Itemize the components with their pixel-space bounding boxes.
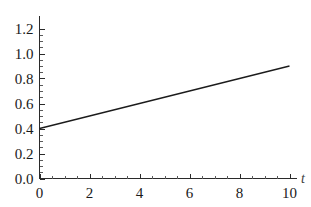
y-tick-label: 0.6 — [15, 96, 34, 112]
y-tick-label: 0.4 — [15, 121, 34, 137]
y-tick-label: 0.0 — [15, 171, 34, 187]
x-tick-label: 0 — [36, 185, 44, 201]
y-tick-label: 0.2 — [15, 146, 34, 162]
x-tick-label: 6 — [186, 185, 194, 201]
y-tick-label: 1.0 — [15, 46, 34, 62]
chart-background — [0, 0, 311, 207]
x-tick-label: 2 — [86, 185, 94, 201]
x-tick-label: 4 — [136, 185, 144, 201]
y-tick-label: 0.8 — [15, 71, 34, 87]
chart-container: 0.00.20.40.60.81.01.2 0246810 t — [0, 0, 311, 207]
line-chart: 0.00.20.40.60.81.01.2 0246810 t — [0, 0, 311, 207]
y-tick-label: 1.2 — [15, 21, 34, 37]
x-tick-label: 8 — [236, 185, 244, 201]
x-tick-label: 10 — [282, 185, 297, 201]
